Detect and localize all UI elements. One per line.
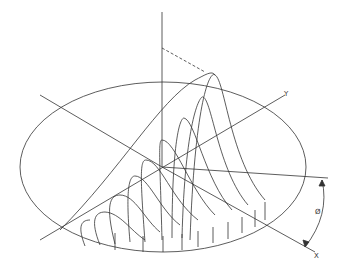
surface-plot-drawing	[0, 0, 339, 276]
profile-curves	[81, 74, 265, 246]
ref-line	[162, 167, 328, 178]
x-axis-label: X	[314, 252, 319, 260]
edge-ticks	[115, 202, 265, 252]
angle-label: Ø	[315, 208, 321, 216]
y-axis-label: Y	[284, 90, 288, 98]
dashed-projection	[162, 48, 205, 72]
diagram-canvas: Y X Ø	[0, 0, 339, 276]
